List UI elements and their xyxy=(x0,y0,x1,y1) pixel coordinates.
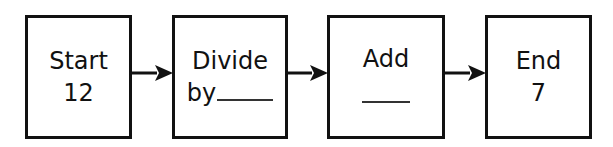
divisor-blank[interactable] xyxy=(217,77,273,101)
flow-box-add: Add xyxy=(327,15,445,139)
divide-by-row: by xyxy=(187,77,273,109)
end-label: End xyxy=(516,45,562,77)
flow-box-end: End 7 xyxy=(485,15,592,139)
divide-label: Divide xyxy=(192,45,268,77)
addend-blank[interactable] xyxy=(362,79,410,103)
flow-box-divide: Divide by xyxy=(172,15,288,139)
arrow-divide-to-add xyxy=(285,64,328,82)
right-arrow-icon xyxy=(285,64,328,82)
add-blank-row xyxy=(362,75,410,111)
divide-by-text: by xyxy=(187,79,216,107)
end-value: 7 xyxy=(531,77,546,109)
arrow-add-to-end xyxy=(442,64,486,82)
start-value: 12 xyxy=(63,77,94,109)
add-label: Add xyxy=(363,43,409,75)
arrow-start-to-divide xyxy=(129,64,173,82)
flow-box-start: Start 12 xyxy=(25,15,132,139)
right-arrow-icon xyxy=(442,64,486,82)
start-label: Start xyxy=(49,45,108,77)
right-arrow-icon xyxy=(129,64,173,82)
